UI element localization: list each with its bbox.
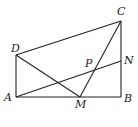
- label-N: N: [123, 54, 134, 67]
- label-A: A: [3, 91, 12, 104]
- label-M: M: [74, 98, 87, 111]
- segment-AN: [16, 61, 121, 97]
- label-P: P: [84, 57, 93, 70]
- label-D: D: [10, 42, 20, 55]
- segments: [16, 21, 121, 97]
- label-C: C: [117, 5, 126, 18]
- segment-DM: [16, 55, 80, 97]
- label-B: B: [123, 92, 132, 105]
- geometry-diagram: A B C D M N P: [0, 0, 138, 127]
